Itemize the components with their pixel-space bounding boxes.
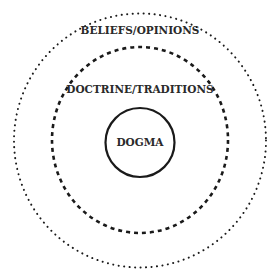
outer-layer-label: BELIEFS/OPINIONS [81, 24, 200, 36]
middle-layer-label: DOCTRINE/TRADITIONS [66, 83, 213, 95]
concentric-diagram: BELIEFS/OPINIONS DOCTRINE/TRADITIONS DOG… [0, 0, 274, 273]
inner-layer-label: DOGMA [117, 136, 165, 148]
